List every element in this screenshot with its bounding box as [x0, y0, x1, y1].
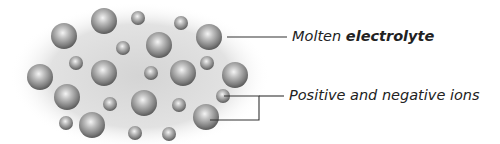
large-ion-sphere	[170, 60, 196, 86]
diagram-stage: Molten electrolyte Positive and negative…	[0, 0, 500, 144]
large-ion-sphere	[193, 104, 219, 130]
large-ion-sphere	[51, 23, 77, 49]
large-ion-sphere	[91, 60, 117, 86]
small-ion-sphere	[200, 56, 214, 70]
small-ion-sphere	[103, 97, 117, 111]
large-ion-sphere	[54, 84, 80, 110]
large-ion-sphere	[131, 90, 157, 116]
electrolyte-label: Molten electrolyte	[292, 29, 434, 44]
small-ion-sphere	[162, 127, 176, 141]
electrolyte-label-prefix: Molten	[292, 28, 341, 44]
large-ion-sphere	[79, 112, 105, 138]
small-ion-sphere	[144, 66, 158, 80]
small-ion-sphere	[128, 126, 142, 140]
ions-label: Positive and negative ions	[289, 88, 480, 103]
large-ion-sphere	[222, 62, 248, 88]
large-ion-sphere	[146, 32, 172, 58]
small-ion-sphere	[59, 116, 73, 130]
small-ion-sphere	[172, 98, 186, 112]
large-ion-sphere	[27, 64, 53, 90]
small-ion-sphere	[69, 56, 83, 70]
small-ion-sphere	[174, 16, 188, 30]
electrolyte-diagram	[0, 0, 500, 144]
small-ion-sphere	[116, 41, 130, 55]
large-ion-sphere	[91, 8, 117, 34]
electrolyte-label-bold: electrolyte	[346, 28, 434, 44]
small-ion-sphere	[131, 11, 145, 25]
large-ion-sphere	[196, 24, 222, 50]
